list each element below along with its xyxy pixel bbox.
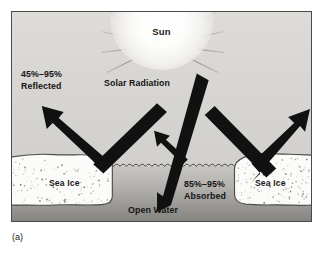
arrow-reflected-left xyxy=(42,106,111,170)
reflected-percent: 45%–95% xyxy=(21,69,62,81)
absorbed-annotation: 85%–95% Absorbed xyxy=(184,179,226,202)
reflected-word: Reflected xyxy=(21,81,62,93)
sea-ice-left-label: Sea Ice xyxy=(49,178,80,188)
absorbed-percent: 85%–95% xyxy=(184,179,226,191)
solar-radiation-label: Solar Radiation xyxy=(104,78,170,90)
figure-caption: (a) xyxy=(12,232,23,242)
radiation-arrows-layer xyxy=(12,12,311,221)
sea-ice-right-label: Sea Ice xyxy=(255,178,286,188)
arrow-reflected-right xyxy=(251,109,310,182)
diagram-panel: Sun xyxy=(11,11,312,222)
figure-container: Sun xyxy=(0,0,325,256)
absorbed-word: Absorbed xyxy=(184,191,226,203)
open-water-label: Open Water xyxy=(128,205,178,217)
arrow-incoming-right xyxy=(205,106,277,177)
reflected-annotation: 45%–95% Reflected xyxy=(21,69,62,92)
